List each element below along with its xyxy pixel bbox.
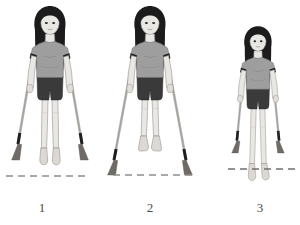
panel-3: 3 bbox=[228, 26, 297, 215]
panel-1: 1 bbox=[6, 6, 90, 215]
illustration-panel: 1 2 3 bbox=[0, 0, 300, 225]
panel-2-caption: 2 bbox=[147, 200, 154, 215]
panel-3-caption: 3 bbox=[257, 200, 264, 215]
figure-3-body bbox=[232, 26, 284, 180]
figure-3 bbox=[232, 26, 284, 180]
figure-2-body bbox=[108, 6, 193, 175]
figure-1-body bbox=[12, 6, 89, 165]
figure-1 bbox=[12, 6, 89, 165]
panel-2: 2 bbox=[108, 6, 196, 215]
panel-1-caption: 1 bbox=[39, 200, 46, 215]
crutch-gait-scene: 1 2 3 bbox=[0, 0, 300, 225]
figure-2 bbox=[108, 6, 193, 175]
